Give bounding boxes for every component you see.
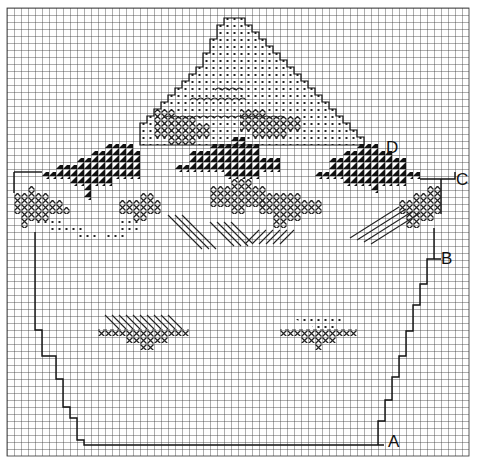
label-d: D <box>386 139 398 156</box>
stitch-chart <box>0 0 481 464</box>
label-b: B <box>441 250 452 267</box>
label-c: C <box>456 171 468 188</box>
label-a: A <box>388 433 399 450</box>
